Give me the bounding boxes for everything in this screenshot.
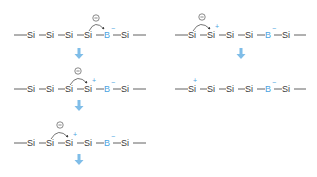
atom-si: Si (188, 84, 196, 94)
atom-si: Si (27, 138, 35, 148)
atom-si: Si (121, 84, 129, 94)
atom-si: Si (65, 138, 73, 148)
positive-charge: + (193, 77, 197, 84)
atom-si: Si (282, 84, 290, 94)
atom-boron: B (265, 84, 271, 94)
atom-si: Si (121, 138, 129, 148)
atom-boron: B (104, 84, 110, 94)
atom-si: Si (207, 84, 215, 94)
atom-si: Si (226, 30, 234, 40)
atom-si: Si (65, 30, 73, 40)
negative-charge: − (272, 79, 276, 86)
atom-si: Si (27, 30, 35, 40)
atom-si: Si (46, 84, 54, 94)
chain-left-3: Si Si Si + Si B − Si (14, 122, 146, 148)
chain-left-2: Si Si Si Si + B − Si (14, 68, 146, 94)
atom-si: Si (84, 30, 92, 40)
chain-left-1: Si Si Si Si B − Si (14, 15, 146, 40)
atom-si: Si (84, 84, 92, 94)
reaction-diagram: Si Si Si Si B − Si Si Si Si Si + B − (0, 0, 317, 177)
atom-si: Si (245, 84, 253, 94)
negative-charge: − (111, 25, 115, 32)
atom-si: Si (282, 30, 290, 40)
atom-si: Si (226, 84, 234, 94)
down-arrow-icon (237, 48, 246, 59)
chain-right-1: Si Si + Si Si B − Si (175, 14, 306, 40)
atom-si: Si (27, 84, 35, 94)
chain-right-2: Si + Si Si Si B − Si (175, 77, 306, 94)
negative-charge: − (111, 133, 115, 140)
positive-charge: + (92, 77, 96, 84)
atom-si: Si (65, 84, 73, 94)
atom-si: Si (207, 30, 215, 40)
down-arrow-icon (75, 48, 84, 59)
atom-si: Si (46, 30, 54, 40)
atom-si: Si (46, 138, 54, 148)
atom-boron: B (104, 30, 110, 40)
atom-si: Si (121, 30, 129, 40)
down-arrow-icon (75, 154, 84, 165)
atom-boron: B (265, 30, 271, 40)
atom-si: Si (188, 30, 196, 40)
atom-si: Si (245, 30, 253, 40)
down-arrow-icon (75, 100, 84, 111)
positive-charge: + (73, 131, 77, 138)
atom-boron: B (104, 138, 110, 148)
atom-si: Si (84, 138, 92, 148)
negative-charge: − (111, 79, 115, 86)
negative-charge: − (272, 25, 276, 32)
positive-charge: + (215, 23, 219, 30)
